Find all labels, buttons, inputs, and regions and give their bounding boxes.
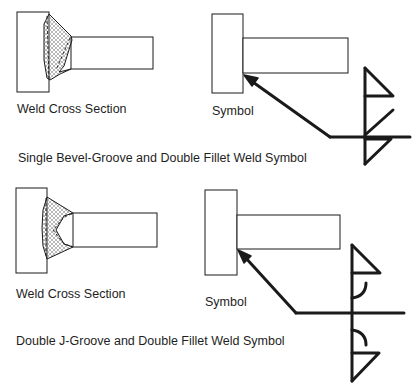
horizontal-plate xyxy=(73,213,157,247)
symbol-label-bottom: Symbol xyxy=(205,295,247,309)
cross-section-single-bevel xyxy=(17,12,153,92)
symbol-single-bevel xyxy=(212,14,410,164)
arrow-leader-line xyxy=(250,80,330,137)
j-groove-bottom-icon xyxy=(352,330,366,345)
weld-symbol xyxy=(238,245,404,381)
arrow-leader-line xyxy=(244,256,296,313)
diagram-title-bottom: Double J-Groove and Double Fillet Weld S… xyxy=(16,334,285,348)
horizontal-plate xyxy=(237,215,340,249)
vertical-plate xyxy=(205,190,237,275)
bevel-groove-icon xyxy=(365,110,393,135)
diagram-title-top: Single Bevel-Groove and Double Fillet We… xyxy=(18,151,307,165)
horizontal-plate xyxy=(71,37,153,69)
weld-bead xyxy=(42,197,73,259)
symbol-double-j xyxy=(205,190,404,381)
fillet-triangle-bottom-icon xyxy=(365,139,391,164)
horizontal-plate xyxy=(243,38,348,73)
fillet-triangle-top-icon xyxy=(365,68,393,96)
cross-section-label-top: Weld Cross Section xyxy=(17,102,127,116)
symbol-label-top: Symbol xyxy=(212,104,254,118)
cross-section-label-bottom: Weld Cross Section xyxy=(16,287,126,301)
fillet-triangle-top-icon xyxy=(352,245,380,273)
weld-symbol xyxy=(244,68,410,164)
fillet-triangle-bottom-icon xyxy=(352,353,379,381)
vertical-plate xyxy=(212,14,243,93)
cross-section-double-j xyxy=(16,188,157,273)
j-groove-top-icon xyxy=(352,283,366,298)
diagram-canvas xyxy=(0,0,419,391)
